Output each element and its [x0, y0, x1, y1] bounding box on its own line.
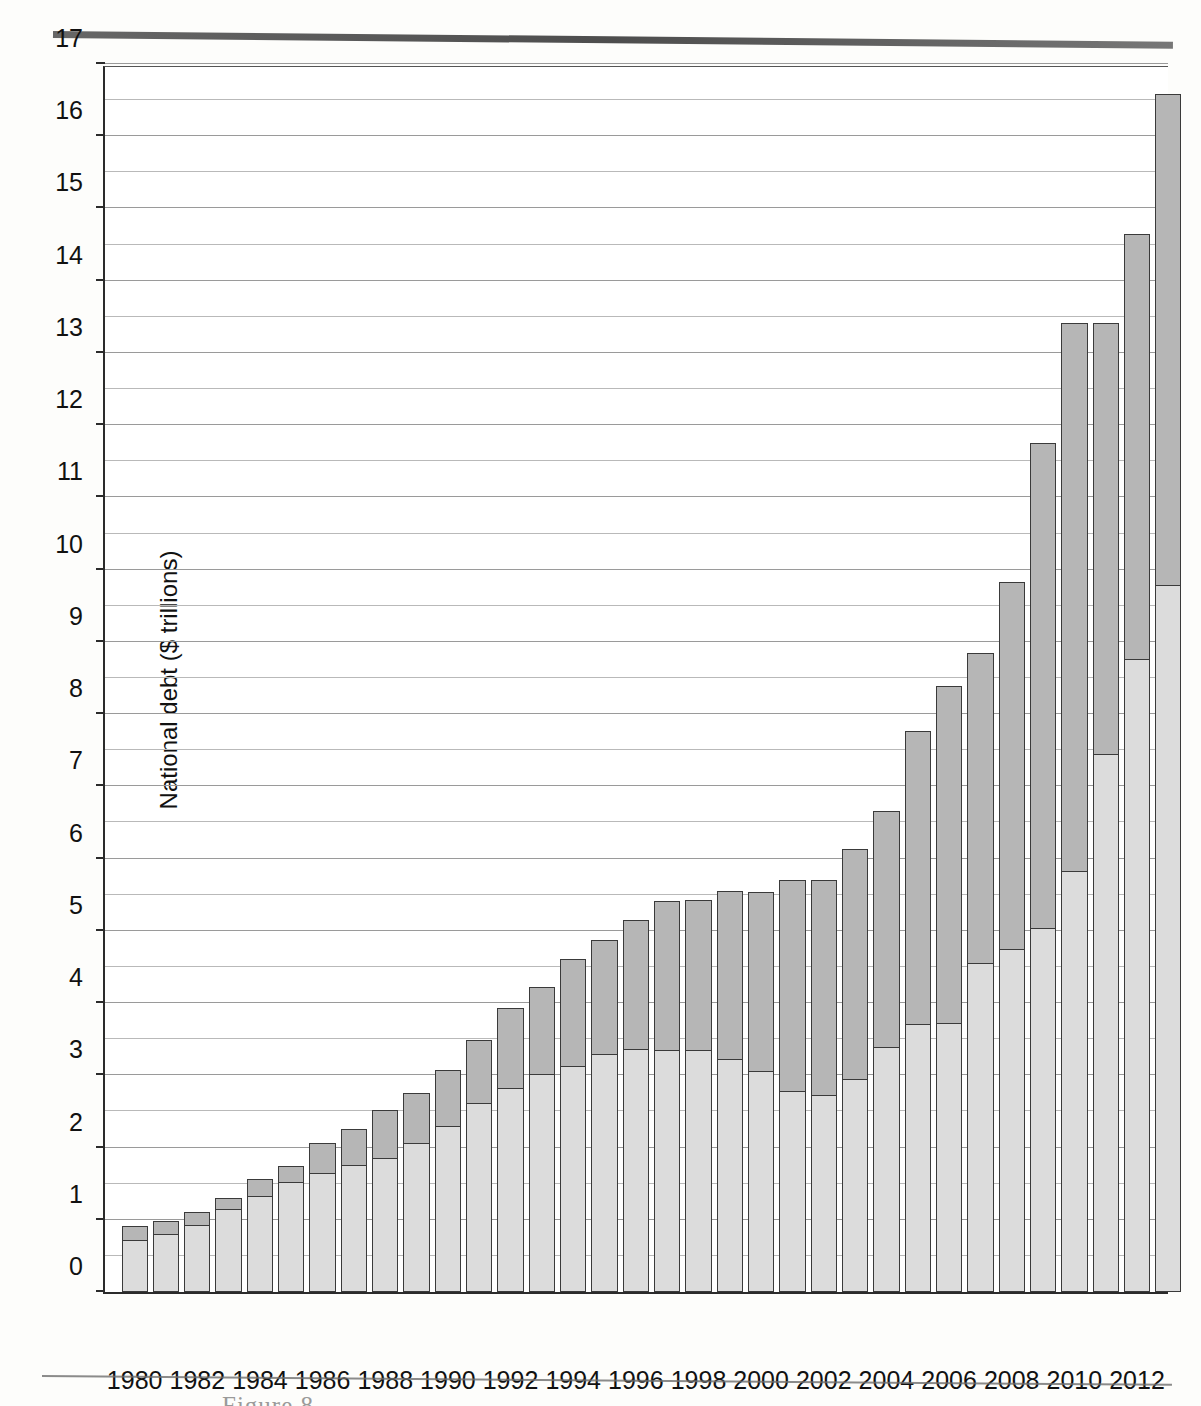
bar-2009[interactable] [1030, 443, 1056, 1292]
bar-2005[interactable] [905, 731, 931, 1292]
y-tick-mark [96, 1146, 105, 1148]
bar-1986[interactable] [309, 1143, 335, 1292]
y-tick-mark [96, 1073, 105, 1075]
bar-segment-public [811, 1096, 837, 1292]
bar-1980[interactable] [122, 1226, 148, 1292]
y-tick-mark [96, 206, 105, 208]
bar-segment-public [591, 1055, 617, 1292]
y-tick-label: 12 [23, 387, 83, 412]
bar-segment-intragovernmental [967, 653, 993, 964]
bar-1992[interactable] [497, 1008, 523, 1292]
bar-2012[interactable] [1124, 234, 1150, 1292]
bar-2007[interactable] [967, 653, 993, 1292]
bar-segment-intragovernmental [247, 1179, 273, 1197]
bar-segment-intragovernmental [122, 1226, 148, 1240]
bar-segment-intragovernmental [685, 900, 711, 1052]
bar-2008[interactable] [999, 582, 1025, 1292]
bar-segment-intragovernmental [403, 1093, 429, 1144]
bar-segment-public [623, 1050, 649, 1292]
y-tick-label: 17 [23, 26, 83, 51]
bar-segment-public [497, 1089, 523, 1292]
bar-1983[interactable] [215, 1198, 241, 1292]
y-tick-label: 10 [23, 532, 83, 557]
bar-1991[interactable] [466, 1040, 492, 1292]
bar-1987[interactable] [341, 1129, 367, 1292]
y-tick-mark [96, 640, 105, 642]
bar-1989[interactable] [403, 1093, 429, 1292]
bar-segment-public [153, 1235, 179, 1292]
bar-1996[interactable] [623, 920, 649, 1292]
bar-1990[interactable] [435, 1070, 461, 1292]
y-tick-mark [96, 784, 105, 786]
bar-segment-intragovernmental [184, 1212, 210, 1226]
bar-segment-public [1124, 660, 1150, 1292]
bar-1981[interactable] [153, 1221, 179, 1292]
bar-segment-public [466, 1104, 492, 1292]
bar-1994[interactable] [560, 959, 586, 1292]
bar-segment-intragovernmental [905, 731, 931, 1025]
bar-segment-public [873, 1048, 899, 1292]
bar-segment-public [779, 1092, 805, 1292]
y-tick-mark [96, 495, 105, 497]
bar-segment-intragovernmental [591, 940, 617, 1055]
y-tick-mark [96, 712, 105, 714]
y-tick-label: 3 [23, 1037, 83, 1062]
y-tick-mark [96, 351, 105, 353]
bar-2006[interactable] [936, 686, 962, 1292]
bar-segment-intragovernmental [811, 880, 837, 1097]
bar-1988[interactable] [372, 1110, 398, 1292]
bar-segment-intragovernmental [654, 901, 680, 1051]
bar-segment-public [685, 1051, 711, 1292]
bar-segment-intragovernmental [1093, 323, 1119, 754]
bar-segment-public [184, 1226, 210, 1292]
bar-segment-intragovernmental [623, 920, 649, 1050]
bar-1995[interactable] [591, 940, 617, 1292]
x-tick-label: 2012 [1092, 1367, 1182, 1394]
page-top-rule [53, 31, 1173, 49]
bar-2011[interactable] [1093, 323, 1119, 1292]
bar-segment-public [560, 1067, 586, 1292]
y-tick-label: 4 [23, 965, 83, 990]
bar-2010[interactable] [1061, 323, 1087, 1292]
bar-segment-public [654, 1051, 680, 1292]
bar-segment-intragovernmental [748, 892, 774, 1072]
bar-segment-public [842, 1080, 868, 1292]
y-tick-label: 16 [23, 98, 83, 123]
bar-2000[interactable] [748, 892, 774, 1292]
bar-segment-public [1061, 872, 1087, 1292]
bar-2013[interactable] [1155, 94, 1181, 1292]
bar-2003[interactable] [842, 848, 868, 1292]
bar-2001[interactable] [779, 880, 805, 1292]
bar-2004[interactable] [873, 811, 899, 1292]
bar-segment-public [529, 1075, 555, 1292]
bar-1985[interactable] [278, 1166, 304, 1292]
bar-segment-intragovernmental [529, 987, 555, 1075]
gridline-major [105, 63, 1168, 64]
bar-1997[interactable] [654, 901, 680, 1292]
bar-1984[interactable] [247, 1179, 273, 1292]
y-tick-label: 0 [23, 1254, 83, 1279]
bar-2002[interactable] [811, 880, 837, 1292]
y-tick-label: 2 [23, 1110, 83, 1135]
bar-segment-public [215, 1210, 241, 1292]
bar-1993[interactable] [529, 987, 555, 1292]
bar-1982[interactable] [184, 1212, 210, 1292]
y-tick-label: 7 [23, 748, 83, 773]
y-tick-mark [96, 1218, 105, 1220]
y-tick-label: 8 [23, 676, 83, 701]
y-tick-mark [96, 857, 105, 859]
y-tick-mark [96, 279, 105, 281]
y-tick-label: 15 [23, 170, 83, 195]
bar-segment-intragovernmental [1124, 234, 1150, 660]
y-tick-mark [96, 62, 105, 64]
bar-1998[interactable] [685, 900, 711, 1292]
bar-segment-public [717, 1060, 743, 1292]
bar-segment-intragovernmental [435, 1070, 461, 1127]
bar-segment-intragovernmental [842, 849, 868, 1080]
bar-segment-intragovernmental [215, 1198, 241, 1210]
bar-1999[interactable] [717, 891, 743, 1292]
bar-segment-intragovernmental [936, 686, 962, 1024]
bar-segment-intragovernmental [560, 959, 586, 1067]
bar-segment-public [936, 1024, 962, 1292]
bar-segment-intragovernmental [309, 1143, 335, 1174]
